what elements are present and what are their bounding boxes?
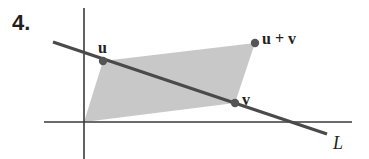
label-u: u xyxy=(98,39,107,56)
problem-number: 4. xyxy=(12,10,30,35)
label-line-L: L xyxy=(332,133,343,153)
point-u xyxy=(99,57,107,65)
point-u-plus-v xyxy=(251,39,259,47)
diagram-canvas: 4. u u + v v L xyxy=(0,0,369,159)
label-u-plus-v: u + v xyxy=(262,30,296,47)
point-v xyxy=(231,99,239,107)
label-v: v xyxy=(242,91,250,108)
